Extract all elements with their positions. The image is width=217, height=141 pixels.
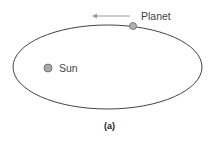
motion-arrow: [92, 14, 130, 19]
elliptical-orbit: [13, 25, 202, 109]
sun-dot: [44, 64, 52, 72]
orbit-diagram: Planet Sun (a): [0, 0, 217, 141]
sun-label: Sun: [59, 62, 78, 74]
planet-dot: [130, 23, 137, 30]
planet-label: Planet: [141, 10, 171, 22]
figure-caption: (a): [104, 121, 115, 131]
arrowhead-icon: [92, 14, 97, 19]
